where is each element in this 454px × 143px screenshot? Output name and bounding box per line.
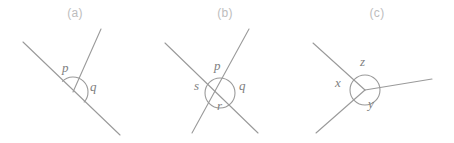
line-straight-a — [23, 42, 120, 135]
ray-right-c — [365, 79, 432, 90]
angle-label-z-c: z — [360, 55, 365, 68]
angle-label-x-c: x — [335, 76, 341, 89]
diagram-a-svg — [0, 0, 150, 143]
angle-label-r-b: r — [217, 99, 222, 112]
diagram-c-svg — [300, 0, 454, 143]
diagram-panel-a: (a) p q — [0, 0, 150, 143]
angle-label-q-a: q — [90, 80, 97, 93]
angle-label-y-c: y — [368, 97, 374, 110]
diagram-b-svg — [150, 0, 300, 143]
diagram-panel-b: (b) p q r s — [150, 0, 300, 143]
angle-label-p-a: p — [62, 61, 69, 74]
angle-label-q-b: q — [239, 79, 246, 92]
angle-arc-a — [62, 77, 88, 102]
ray-lower-left-c — [316, 90, 365, 133]
angle-label-s-b: s — [194, 79, 199, 92]
angle-label-p-b: p — [214, 59, 221, 72]
geometry-figure: (a) p q (b) p q r s (c) — [0, 0, 454, 143]
diagram-panel-c: (c) z x y — [300, 0, 454, 143]
